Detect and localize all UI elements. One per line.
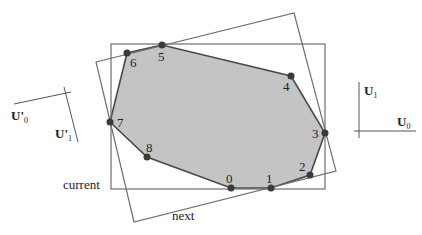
diagram-svg: 0 1 2 3 4 5 6 7 8 current next U1 U0 U'0… (0, 0, 422, 235)
current-label: current (63, 177, 100, 192)
hull-point-5 (159, 42, 166, 49)
axis-label-u1-prime: U'1 (55, 126, 72, 143)
hull-point-7 (107, 119, 114, 126)
current-frame-axes: U1 U0 (354, 82, 416, 138)
point-label-0: 0 (226, 171, 233, 186)
hull-point-2 (307, 172, 314, 179)
next-label: next (172, 208, 195, 223)
point-label-5: 5 (158, 49, 165, 64)
hull-point-3 (322, 130, 329, 137)
convex-hull (110, 45, 325, 188)
point-label-4: 4 (283, 79, 290, 94)
diagram-canvas: 0 1 2 3 4 5 6 7 8 current next U1 U0 U'0… (0, 0, 422, 235)
point-label-7: 7 (117, 115, 124, 130)
next-frame-axes: U'0 U'1 (11, 87, 78, 143)
axis-label-u0: U0 (397, 114, 410, 131)
point-label-6: 6 (130, 55, 137, 70)
axis-label-u0-prime: U'0 (11, 108, 28, 125)
point-label-1: 1 (266, 171, 273, 186)
axis-label-u1: U1 (364, 83, 377, 100)
point-label-2: 2 (299, 159, 306, 174)
point-label-8: 8 (146, 140, 153, 155)
point-label-3: 3 (312, 126, 319, 141)
